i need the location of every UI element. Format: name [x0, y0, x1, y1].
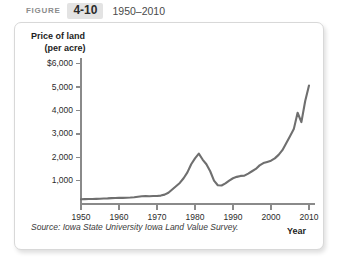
data-line — [81, 86, 309, 200]
chart-series — [81, 86, 309, 200]
figure-panel: Price of land (per acre) 1,0002,0003,000… — [14, 22, 324, 250]
y-axis-tick-label: 1,000 — [27, 175, 73, 185]
x-axis-tick-label: 2010 — [292, 212, 326, 222]
x-axis-title: Year — [287, 226, 306, 236]
y-axis-tick-label: $6,000 — [27, 58, 73, 68]
figure-header: FIGURE 4-10 1950–2010 — [26, 2, 165, 19]
x-axis-tick-label: 1980 — [178, 212, 212, 222]
figure-screenshot: FIGURE 4-10 1950–2010 Price of land (per… — [0, 0, 338, 261]
source-note: Source: Iowa State University Iowa Land … — [31, 222, 238, 232]
y-axis-tick-label: 2,000 — [27, 152, 73, 162]
chart-axes — [76, 58, 315, 210]
figure-number-badge: 4-10 — [67, 3, 103, 19]
figure-label: FIGURE — [26, 6, 67, 15]
y-axis-tick-label: 3,000 — [27, 128, 73, 138]
y-axis-tick-label: 4,000 — [27, 105, 73, 115]
x-axis-tick-label: 2000 — [254, 212, 288, 222]
y-axis-tick-label: 5,000 — [27, 82, 73, 92]
x-axis-tick-label: 1960 — [102, 212, 136, 222]
x-axis-tick-label: 1970 — [140, 212, 174, 222]
x-axis-tick-label: 1990 — [216, 212, 250, 222]
x-axis-tick-label: 1950 — [64, 212, 98, 222]
figure-year-range: 1950–2010 — [103, 5, 165, 17]
